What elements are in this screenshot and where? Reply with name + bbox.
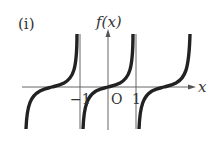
- chart-figure: (i) f(x) x −1 O 1: [0, 0, 214, 146]
- origin-label: O: [111, 91, 122, 107]
- curve-branch-right: [139, 34, 190, 129]
- tick-label-neg1: −1: [70, 91, 91, 107]
- y-axis-label: f(x): [95, 13, 122, 31]
- x-axis-arrow-icon: [188, 85, 196, 90]
- curve-branch-left: [26, 34, 77, 129]
- tick-label-pos1: 1: [132, 91, 141, 107]
- x-axis-label: x: [198, 78, 207, 96]
- panel-label: (i): [18, 15, 35, 33]
